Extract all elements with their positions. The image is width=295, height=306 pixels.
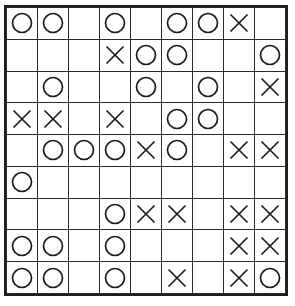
grid-cell-r2-c3[interactable]: [100, 71, 131, 103]
grid-cell-r0-c6[interactable]: [193, 8, 224, 40]
grid-cell-r0-c2[interactable]: [69, 8, 100, 40]
grid-cell-r4-c0[interactable]: [7, 135, 38, 167]
empty-cell: [7, 199, 37, 230]
empty-cell: [131, 230, 161, 261]
circle-icon: [100, 199, 130, 230]
grid-cell-r2-c6[interactable]: [193, 71, 224, 103]
grid-cell-r6-c8[interactable]: [255, 198, 286, 230]
grid-cell-r6-c2[interactable]: [69, 198, 100, 230]
grid-cell-r1-c7[interactable]: [224, 39, 255, 71]
grid-cell-r7-c6[interactable]: [193, 230, 224, 262]
grid-cell-r1-c1[interactable]: [38, 39, 69, 71]
grid-cell-r7-c3[interactable]: [100, 230, 131, 262]
grid-cell-r4-c3[interactable]: [100, 135, 131, 167]
grid-cell-r3-c0[interactable]: [7, 103, 38, 135]
grid-cell-r3-c4[interactable]: [131, 103, 162, 135]
cross-icon: [255, 72, 285, 103]
empty-cell: [38, 167, 68, 198]
grid-cell-r8-c3[interactable]: [100, 262, 131, 294]
grid-cell-r5-c0[interactable]: [7, 166, 38, 198]
grid-cell-r8-c7[interactable]: [224, 262, 255, 294]
grid-cell-r8-c8[interactable]: [255, 262, 286, 294]
grid-cell-r3-c5[interactable]: [162, 103, 193, 135]
grid-cell-r4-c8[interactable]: [255, 135, 286, 167]
grid-cell-r3-c2[interactable]: [69, 103, 100, 135]
grid-cell-r5-c7[interactable]: [224, 166, 255, 198]
grid-cell-r3-c6[interactable]: [193, 103, 224, 135]
grid-cell-r3-c7[interactable]: [224, 103, 255, 135]
puzzle-grid: [6, 7, 286, 294]
grid-cell-r8-c4[interactable]: [131, 262, 162, 294]
grid-cell-r6-c5[interactable]: [162, 198, 193, 230]
grid-cell-r0-c4[interactable]: [131, 8, 162, 40]
grid-cell-r2-c5[interactable]: [162, 71, 193, 103]
grid-cell-r1-c5[interactable]: [162, 39, 193, 71]
grid-cell-r8-c1[interactable]: [38, 262, 69, 294]
grid-cell-r6-c3[interactable]: [100, 198, 131, 230]
grid-cell-r7-c1[interactable]: [38, 230, 69, 262]
grid-cell-r5-c8[interactable]: [255, 166, 286, 198]
grid-cell-r2-c8[interactable]: [255, 71, 286, 103]
grid-cell-r8-c6[interactable]: [193, 262, 224, 294]
grid-cell-r0-c3[interactable]: [100, 8, 131, 40]
grid-cell-r0-c5[interactable]: [162, 8, 193, 40]
grid-cell-r3-c3[interactable]: [100, 103, 131, 135]
grid-cell-r3-c1[interactable]: [38, 103, 69, 135]
grid-cell-r8-c2[interactable]: [69, 262, 100, 294]
grid-cell-r0-c0[interactable]: [7, 8, 38, 40]
circle-icon: [38, 135, 68, 166]
grid-cell-r6-c1[interactable]: [38, 198, 69, 230]
grid-cell-r2-c4[interactable]: [131, 71, 162, 103]
grid-cell-r7-c7[interactable]: [224, 230, 255, 262]
empty-cell: [69, 230, 99, 261]
empty-cell: [69, 103, 99, 134]
grid-cell-r7-c2[interactable]: [69, 230, 100, 262]
grid-cell-r0-c1[interactable]: [38, 8, 69, 40]
grid-cell-r5-c3[interactable]: [100, 166, 131, 198]
empty-cell: [224, 103, 254, 134]
grid-cell-r2-c2[interactable]: [69, 71, 100, 103]
grid-cell-r2-c7[interactable]: [224, 71, 255, 103]
grid-cell-r1-c2[interactable]: [69, 39, 100, 71]
grid-cell-r0-c7[interactable]: [224, 8, 255, 40]
grid-cell-r4-c4[interactable]: [131, 135, 162, 167]
grid-cell-r2-c0[interactable]: [7, 71, 38, 103]
circle-icon: [7, 167, 37, 198]
grid-cell-r7-c8[interactable]: [255, 230, 286, 262]
empty-cell: [193, 40, 223, 71]
grid-cell-r1-c8[interactable]: [255, 39, 286, 71]
grid-cell-r4-c1[interactable]: [38, 135, 69, 167]
grid-cell-r5-c5[interactable]: [162, 166, 193, 198]
grid-cell-r6-c4[interactable]: [131, 198, 162, 230]
grid-cell-r1-c4[interactable]: [131, 39, 162, 71]
grid-cell-r1-c3[interactable]: [100, 39, 131, 71]
puzzle-grid-row: [7, 39, 286, 71]
grid-cell-r1-c6[interactable]: [193, 39, 224, 71]
grid-cell-r7-c5[interactable]: [162, 230, 193, 262]
grid-cell-r5-c2[interactable]: [69, 166, 100, 198]
grid-cell-r0-c8[interactable]: [255, 8, 286, 40]
grid-cell-r7-c0[interactable]: [7, 230, 38, 262]
grid-cell-r6-c6[interactable]: [193, 198, 224, 230]
grid-cell-r8-c0[interactable]: [7, 262, 38, 294]
grid-cell-r6-c7[interactable]: [224, 198, 255, 230]
grid-cell-r5-c1[interactable]: [38, 166, 69, 198]
puzzle-grid-row: [7, 71, 286, 103]
grid-cell-r7-c4[interactable]: [131, 230, 162, 262]
grid-cell-r1-c0[interactable]: [7, 39, 38, 71]
grid-cell-r4-c2[interactable]: [69, 135, 100, 167]
grid-cell-r6-c0[interactable]: [7, 198, 38, 230]
cross-icon: [7, 103, 37, 134]
empty-cell: [69, 8, 99, 39]
grid-cell-r4-c5[interactable]: [162, 135, 193, 167]
grid-cell-r8-c5[interactable]: [162, 262, 193, 294]
grid-cell-r3-c8[interactable]: [255, 103, 286, 135]
circle-icon: [7, 230, 37, 261]
circle-icon: [193, 72, 223, 103]
grid-cell-r5-c6[interactable]: [193, 166, 224, 198]
grid-cell-r2-c1[interactable]: [38, 71, 69, 103]
empty-cell: [193, 167, 223, 198]
grid-cell-r4-c7[interactable]: [224, 135, 255, 167]
grid-cell-r5-c4[interactable]: [131, 166, 162, 198]
grid-cell-r4-c6[interactable]: [193, 135, 224, 167]
